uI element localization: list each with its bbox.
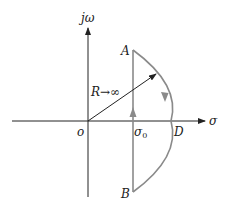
upward-arrow-icon [130,107,137,117]
jw-axis-label: jω [78,11,95,25]
point-b-label: B [120,187,130,201]
sigma0-label: σ0 [134,125,147,140]
origin-label: o [77,125,84,139]
diagram-svg: jω σ o A B D σ0 R→∞ [0,0,227,207]
contour-diagram: jω σ o A B D σ0 R→∞ [0,0,227,207]
point-a-label: A [120,44,130,58]
downward-arrow-icon [161,92,169,102]
radius-label: R→∞ [90,85,120,99]
sigma-axis-label: σ [209,114,218,128]
point-d-label: D [173,125,184,139]
